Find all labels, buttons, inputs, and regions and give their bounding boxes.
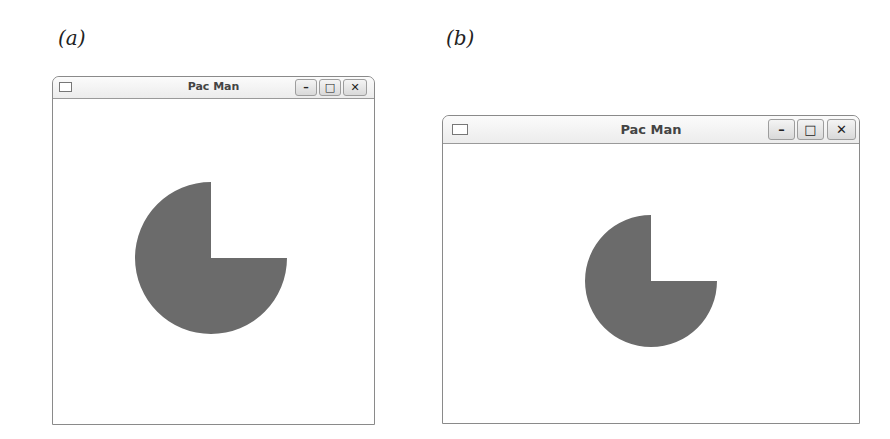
pacman-a [135,182,287,334]
pacman-layer [0,0,890,439]
pacman-b [585,215,717,347]
